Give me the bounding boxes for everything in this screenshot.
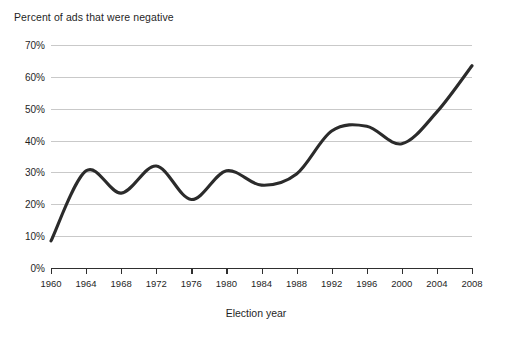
x-tick-mark [156,268,157,274]
x-tick-mark [86,268,87,274]
x-tick-mark [332,268,333,274]
x-tick-mark [437,268,438,274]
x-tick-label: 1972 [146,278,167,289]
x-tick-mark [121,268,122,274]
x-tick-label: 1988 [286,278,307,289]
chart-figure: Percent of ads that were negative 0%10%2… [0,0,512,341]
x-tick-label: 1992 [321,278,342,289]
x-tick-label: 1984 [251,278,272,289]
x-tick-mark [262,268,263,274]
x-tick-label: 1976 [181,278,202,289]
x-tick-label: 2008 [461,278,482,289]
x-tick-label: 1980 [216,278,237,289]
x-tick-mark [402,268,403,274]
x-tick-mark [226,268,227,274]
x-tick-label: 2000 [391,278,412,289]
x-tick-mark [191,268,192,274]
x-tick-mark [51,268,52,274]
x-tick-mark [367,268,368,274]
x-axis-title: Election year [0,307,512,319]
data-series-line [0,0,512,341]
x-tick-mark [472,268,473,274]
x-tick-label: 1968 [111,278,132,289]
x-tick-label: 1996 [356,278,377,289]
x-tick-label: 1960 [40,278,61,289]
x-tick-label: 2004 [426,278,447,289]
x-tick-label: 1964 [76,278,97,289]
x-tick-mark [297,268,298,274]
